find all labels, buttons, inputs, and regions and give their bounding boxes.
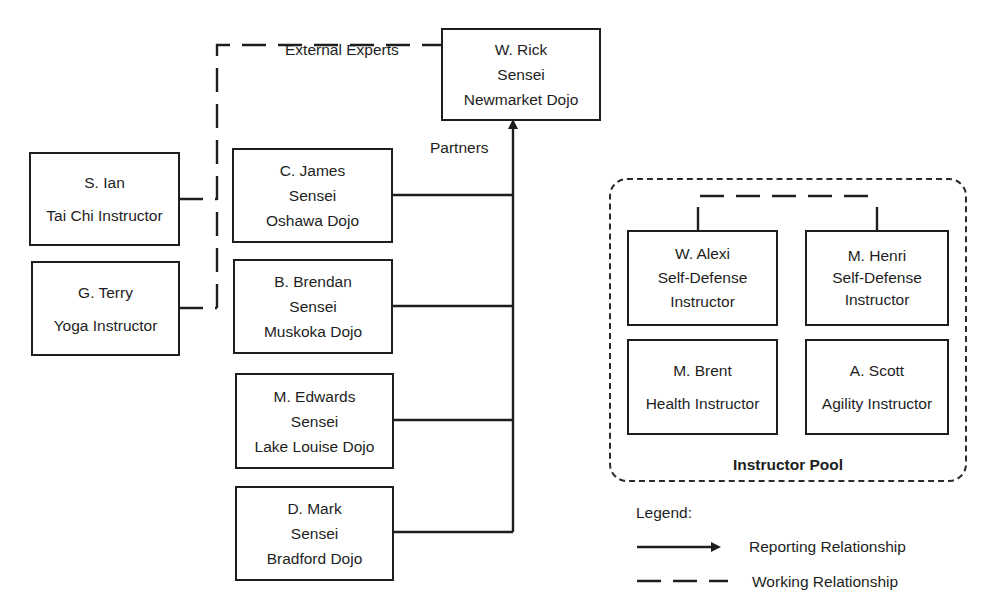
node-name: D. Mark xyxy=(287,496,341,521)
node-name: G. Terry xyxy=(78,276,133,309)
node-org: Bradford Dojo xyxy=(267,546,363,571)
node-m-henri[interactable]: M. Henri Self-Defense Instructor xyxy=(805,230,949,326)
node-title: Sensei xyxy=(291,521,338,546)
node-role: Health Instructor xyxy=(646,387,760,420)
node-name: C. James xyxy=(280,158,345,183)
external-experts-label: External Experts xyxy=(285,41,399,59)
node-c-james[interactable]: C. James Sensei Oshawa Dojo xyxy=(232,148,393,243)
node-title: Sensei xyxy=(289,183,336,208)
partner-reporting-lines xyxy=(392,124,513,532)
node-name: M. Edwards xyxy=(274,384,356,409)
node-g-terry[interactable]: G. Terry Yoga Instructor xyxy=(31,261,180,356)
node-org: Lake Louise Dojo xyxy=(255,434,375,459)
node-name: W. Alexi xyxy=(675,242,730,266)
node-org: Oshawa Dojo xyxy=(266,208,359,233)
node-name: B. Brendan xyxy=(274,269,352,294)
node-a-scott[interactable]: A. Scott Agility Instructor xyxy=(805,339,949,435)
node-w-alexi[interactable]: W. Alexi Self-Defense Instructor xyxy=(627,230,778,326)
node-role: Instructor xyxy=(670,290,735,314)
instructor-pool-title: Instructor Pool xyxy=(609,456,967,474)
partners-label: Partners xyxy=(430,139,489,157)
node-org: Newmarket Dojo xyxy=(464,87,579,112)
node-name: S. Ian xyxy=(84,166,125,199)
node-role: Agility Instructor xyxy=(822,387,932,420)
node-title: Sensei xyxy=(497,62,544,87)
node-name: A. Scott xyxy=(850,354,904,387)
node-d-mark[interactable]: D. Mark Sensei Bradford Dojo xyxy=(235,486,394,581)
node-role: Yoga Instructor xyxy=(54,309,158,342)
node-m-brent[interactable]: M. Brent Health Instructor xyxy=(627,339,778,435)
node-m-edwards[interactable]: M. Edwards Sensei Lake Louise Dojo xyxy=(235,373,394,469)
node-role: Self-Defense xyxy=(658,266,748,290)
legend-working-label: Working Relationship xyxy=(752,573,898,591)
node-role: Instructor xyxy=(845,289,910,311)
node-name: M. Brent xyxy=(673,354,732,387)
legend-title: Legend: xyxy=(636,504,692,522)
node-role: Self-Defense xyxy=(832,267,922,289)
instructor-pool-container xyxy=(609,178,967,482)
node-name: M. Henri xyxy=(848,245,907,267)
node-name: W. Rick xyxy=(495,37,548,62)
legend-reporting-label: Reporting Relationship xyxy=(749,538,906,556)
node-title: Sensei xyxy=(291,409,338,434)
node-w-rick[interactable]: W. Rick Sensei Newmarket Dojo xyxy=(441,28,601,121)
node-org: Muskoka Dojo xyxy=(264,319,362,344)
node-role: Tai Chi Instructor xyxy=(46,199,162,232)
node-s-ian[interactable]: S. Ian Tai Chi Instructor xyxy=(29,152,180,246)
node-b-brendan[interactable]: B. Brendan Sensei Muskoka Dojo xyxy=(233,259,393,354)
node-title: Sensei xyxy=(289,294,336,319)
